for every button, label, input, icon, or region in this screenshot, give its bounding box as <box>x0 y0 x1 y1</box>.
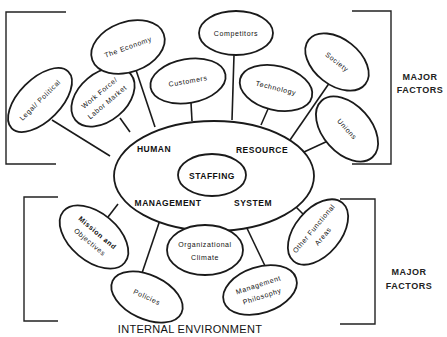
label-staffing: STAFFING <box>189 171 235 181</box>
internal-environment-label: INTERNAL ENVIRONMENT <box>118 323 262 335</box>
node-unions: Unions <box>304 85 391 174</box>
label-management: MANAGEMENT <box>135 198 202 208</box>
svg-text:FACTORS: FACTORS <box>397 85 443 95</box>
svg-text:Organizational: Organizational <box>178 241 232 249</box>
label-system: SYSTEM <box>234 198 272 208</box>
node-customers: Customers <box>147 53 229 110</box>
label-resource: RESOURCE <box>236 145 288 155</box>
staffing-diagram: HUMAN RESOURCE MANAGEMENT SYSTEM STAFFIN… <box>0 0 447 337</box>
svg-text:MAJOR: MAJOR <box>402 72 437 82</box>
node-mission-and-objectives: Mission and Objectives <box>48 193 140 281</box>
label-human: HUMAN <box>137 144 171 154</box>
svg-text:MAJOR: MAJOR <box>391 267 426 277</box>
lower-left-bracket <box>24 197 58 321</box>
upper-major-factors-label: MAJOR FACTORS <box>397 72 443 95</box>
lower-major-factors-label: MAJOR FACTORS <box>386 267 432 291</box>
node-organizational-climate: Organizational Climate <box>167 225 243 275</box>
node-competitors: Competitors <box>199 11 273 55</box>
svg-text:FACTORS: FACTORS <box>386 281 432 291</box>
svg-text:Climate: Climate <box>191 254 219 261</box>
node-technology: Technology <box>235 58 317 119</box>
staffing-node: STAFFING <box>178 154 246 196</box>
node-legal-political: Legal/ Political <box>0 57 83 143</box>
svg-text:Competitors: Competitors <box>214 30 258 38</box>
